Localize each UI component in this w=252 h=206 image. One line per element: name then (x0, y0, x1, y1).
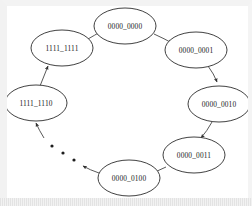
state-node-label: 0000_0010 (202, 100, 237, 109)
state-node-1111-1110[interactable]: 1111_1110 (5, 85, 67, 121)
ellipsis-dot-2 (61, 151, 64, 154)
state-node-label: 0000_0011 (177, 151, 211, 160)
ellipsis-dot-3 (72, 158, 75, 161)
state-node-0000-0100[interactable]: 0000_0100 (98, 160, 160, 196)
state-node-0000-0000[interactable]: 0000_0000 (94, 8, 156, 44)
ellipsis-indicator (50, 144, 75, 161)
node-layer: 0000_0000 0000_0001 0000_0010 0000_0011 … (5, 8, 250, 196)
state-node-0000-0011[interactable]: 0000_0011 (163, 137, 225, 173)
state-node-label: 0000_0000 (108, 22, 143, 31)
edge-s2-to-s3 (201, 122, 212, 138)
edge-sN2-to-sN1 (40, 66, 48, 86)
ellipsis-dot-1 (50, 144, 53, 147)
edge-s1-to-s2 (208, 66, 217, 82)
state-node-0000-0010[interactable]: 0000_0010 (188, 86, 250, 122)
state-node-label: 1111_1110 (19, 99, 52, 108)
state-node-label: 0000_0001 (179, 46, 214, 55)
state-node-label: 0000_0100 (112, 174, 147, 183)
edge-ellipsis-to-sN2 (36, 123, 44, 138)
edge-s4-to-ellipsis (83, 166, 99, 173)
state-node-1111-1111[interactable]: 1111_1111 (31, 30, 93, 66)
state-node-0000-0001[interactable]: 0000_0001 (165, 32, 227, 68)
state-transition-diagram: 0000_0000 0000_0001 0000_0010 0000_0011 … (0, 0, 252, 206)
state-node-label: 1111_1111 (46, 44, 79, 53)
diagram-canvas: 0000_0000 0000_0001 0000_0010 0000_0011 … (0, 0, 252, 206)
bottom-striped-strip (0, 198, 252, 206)
